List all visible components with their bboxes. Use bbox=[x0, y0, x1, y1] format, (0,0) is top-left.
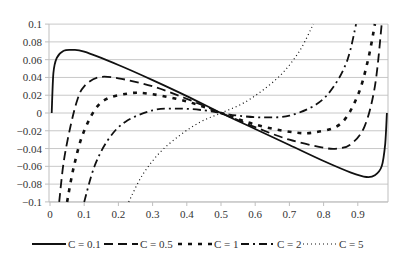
x-tick-label: 0.5 bbox=[214, 208, 228, 220]
x-tick-label: 0.7 bbox=[283, 208, 297, 220]
x-tick-label: 0.3 bbox=[146, 208, 160, 220]
y-tick-label: 0.04 bbox=[23, 71, 43, 83]
legend-label: C = 5 bbox=[339, 238, 364, 250]
x-axis-tick-labels: 00.10.20.30.40.50.60.70.80.9 bbox=[47, 208, 365, 220]
x-tick-label: 0.1 bbox=[77, 208, 91, 220]
axes bbox=[45, 24, 388, 206]
y-tick-label: −0.1 bbox=[22, 196, 42, 208]
x-tick-label: 0.4 bbox=[180, 208, 194, 220]
y-tick-label: 0 bbox=[37, 107, 43, 119]
y-tick-label: −0.08 bbox=[17, 178, 43, 190]
y-tick-label: −0.04 bbox=[17, 143, 43, 155]
x-tick-label: 0.6 bbox=[248, 208, 262, 220]
y-tick-label: −0.02 bbox=[17, 125, 42, 137]
y-tick-label: 0.02 bbox=[23, 89, 42, 101]
y-tick-label: 0.1 bbox=[28, 18, 42, 30]
y-tick-label: 0.06 bbox=[23, 54, 43, 66]
legend-label: C = 0.1 bbox=[68, 238, 101, 250]
legend: C = 0.1C = 0.5C = 1C = 2C = 5 bbox=[32, 238, 364, 250]
y-tick-label: 0.08 bbox=[23, 36, 43, 48]
gridlines bbox=[49, 24, 388, 202]
x-tick-label: 0.9 bbox=[351, 208, 365, 220]
y-axis-tick-labels: 0.10.080.060.040.020−0.02−0.04−0.06−0.08… bbox=[17, 18, 43, 208]
line-chart: 0.10.080.060.040.020−0.02−0.04−0.06−0.08… bbox=[0, 0, 408, 263]
x-tick-label: 0.2 bbox=[112, 208, 126, 220]
legend-label: C = 2 bbox=[277, 238, 302, 250]
y-tick-label: −0.06 bbox=[17, 160, 43, 172]
x-tick-label: 0.8 bbox=[317, 208, 331, 220]
x-tick-label: 0 bbox=[47, 208, 53, 220]
legend-label: C = 1 bbox=[214, 238, 239, 250]
legend-label: C = 0.5 bbox=[140, 238, 173, 250]
